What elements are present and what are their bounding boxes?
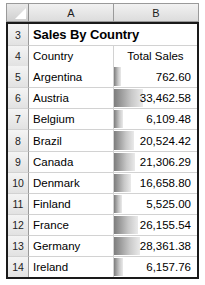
table-row[interactable]: 13Germany28,361.38 — [8, 235, 197, 256]
column-label-country-text: Country — [33, 50, 73, 62]
row-header-label: 14 — [12, 261, 24, 273]
cell-country-text: Canada — [33, 156, 73, 168]
spreadsheet: A B 3 Sales By Country 4 Country Total S… — [6, 3, 199, 277]
page-title: Sales By Country — [33, 27, 139, 42]
data-bar — [114, 195, 122, 213]
row-header-3[interactable]: 3 — [8, 24, 29, 45]
row-header-label: 7 — [15, 113, 21, 125]
cell-total-sales[interactable]: 6,157.76 — [113, 256, 197, 277]
cell-total-sales[interactable]: 26,155.54 — [113, 214, 197, 235]
cell-country[interactable]: Austria — [29, 87, 113, 108]
cell-total-sales-text: 21,306.29 — [140, 156, 193, 168]
cell-country[interactable]: France — [29, 214, 113, 235]
table-header-row[interactable]: 4 Country Total Sales — [8, 45, 197, 66]
cell-country[interactable]: Belgium — [29, 108, 113, 129]
cell-country-text: Belgium — [33, 113, 75, 125]
cell-country[interactable]: Finland — [29, 193, 113, 214]
table-row[interactable]: 9Canada21,306.29 — [8, 151, 197, 172]
table-row[interactable]: 12France26,155.54 — [8, 214, 197, 235]
row-header-7[interactable]: 7 — [8, 108, 29, 129]
row-header-label: 13 — [12, 240, 24, 252]
data-bar — [114, 110, 123, 128]
table-row[interactable]: 3 Sales By Country — [8, 24, 197, 45]
select-all-triangle-icon — [15, 8, 26, 19]
column-label-total-sales[interactable]: Total Sales — [113, 45, 197, 66]
row-header-4[interactable]: 4 — [8, 45, 29, 66]
column-label-country[interactable]: Country — [29, 45, 113, 66]
cell-total-sales-text: 762.60 — [156, 71, 193, 83]
row-header-11[interactable]: 11 — [8, 193, 29, 214]
cell-total-sales[interactable]: 20,524.42 — [113, 129, 197, 150]
cell-total-sales[interactable]: 21,306.29 — [113, 151, 197, 172]
cell-total-sales[interactable]: 28,361.38 — [113, 235, 197, 256]
table-row[interactable]: 14Ireland6,157.76 — [8, 256, 197, 277]
cell-total-sales[interactable]: 762.60 — [113, 66, 197, 87]
cell-total-sales[interactable]: 33,462.58 — [113, 87, 197, 108]
cell-country[interactable]: Germany — [29, 235, 113, 256]
data-bar — [114, 237, 140, 255]
column-header-b[interactable]: B — [114, 3, 199, 22]
cell-country[interactable]: Argentina — [29, 66, 113, 87]
row-header-9[interactable]: 9 — [8, 151, 29, 172]
table-row[interactable]: 7Belgium6,109.48 — [8, 108, 197, 129]
cell-total-sales-text: 26,155.54 — [140, 219, 193, 231]
row-header-label: 6 — [15, 92, 21, 104]
data-rows: 5Argentina762.606Austria33,462.587Belgiu… — [8, 66, 197, 277]
cell-total-sales[interactable]: 16,658.80 — [113, 172, 197, 193]
cell-total-sales-text: 6,109.48 — [146, 113, 193, 125]
column-label-total-sales-text: Total Sales — [127, 50, 183, 62]
cell-total-sales[interactable]: 5,525.00 — [113, 193, 197, 214]
cell-total-sales-text: 20,524.42 — [140, 135, 193, 147]
data-bar — [114, 153, 135, 171]
cell-total-sales-text: 28,361.38 — [140, 240, 193, 252]
sheet-title-cell[interactable]: Sales By Country — [29, 24, 197, 45]
table-row[interactable]: 8Brazil20,524.42 — [8, 129, 197, 150]
table-row[interactable]: 6Austria33,462.58 — [8, 87, 197, 108]
row-header-4-label: 4 — [15, 50, 21, 62]
column-header-row: A B — [6, 3, 199, 22]
cell-country-text: Germany — [33, 240, 80, 252]
table-row[interactable]: 11Finland5,525.00 — [8, 193, 197, 214]
column-header-b-label: B — [152, 7, 159, 19]
cell-country-text: France — [33, 219, 69, 231]
row-header-8[interactable]: 8 — [8, 129, 29, 150]
row-header-label: 12 — [12, 219, 24, 231]
row-header-5[interactable]: 5 — [8, 66, 29, 87]
cell-country[interactable]: Brazil — [29, 129, 113, 150]
cell-country[interactable]: Denmark — [29, 172, 113, 193]
data-bar — [114, 131, 134, 149]
row-header-14[interactable]: 14 — [8, 256, 29, 277]
row-header-13[interactable]: 13 — [8, 235, 29, 256]
cell-country-text: Finland — [33, 198, 71, 210]
column-header-a-label: A — [67, 7, 74, 19]
row-header-label: 10 — [12, 177, 24, 189]
data-bar — [114, 67, 121, 86]
cell-total-sales-text: 33,462.58 — [140, 92, 193, 104]
cell-country-text: Denmark — [33, 177, 80, 189]
row-header-12[interactable]: 12 — [8, 214, 29, 235]
column-header-a[interactable]: A — [29, 3, 114, 22]
cell-total-sales[interactable]: 6,109.48 — [113, 108, 197, 129]
cell-country[interactable]: Canada — [29, 151, 113, 172]
select-all-button[interactable] — [6, 3, 29, 22]
data-bar — [114, 174, 131, 192]
table-row[interactable]: 5Argentina762.60 — [8, 66, 197, 87]
data-bar — [114, 216, 138, 234]
row-header-label: 5 — [15, 71, 21, 83]
cell-country[interactable]: Ireland — [29, 256, 113, 277]
grid: 3 Sales By Country 4 Country Total Sales… — [6, 22, 199, 279]
row-header-label: 9 — [15, 156, 21, 168]
cell-total-sales-text: 6,157.76 — [146, 261, 193, 273]
cell-country-text: Brazil — [33, 135, 62, 147]
cell-total-sales-text: 16,658.80 — [140, 177, 193, 189]
data-bar — [114, 258, 123, 276]
cell-country-text: Ireland — [33, 261, 68, 273]
row-header-label: 8 — [15, 135, 21, 147]
row-header-label: 11 — [13, 198, 24, 210]
cell-country-text: Argentina — [33, 71, 82, 83]
row-header-10[interactable]: 10 — [8, 172, 29, 193]
row-header-3-label: 3 — [15, 29, 21, 41]
cell-total-sales-text: 5,525.00 — [146, 198, 193, 210]
table-row[interactable]: 10Denmark16,658.80 — [8, 172, 197, 193]
row-header-6[interactable]: 6 — [8, 87, 29, 108]
